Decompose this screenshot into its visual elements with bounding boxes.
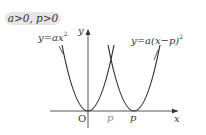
- origin-label: O: [78, 113, 86, 124]
- curve-label-2: y=a(x−p)2: [131, 33, 183, 46]
- x-axis-label: x: [174, 113, 180, 124]
- y-axis-label: y: [78, 25, 84, 36]
- tick-p-gray: p: [107, 112, 113, 123]
- curve-a-x-minus-p-2: [108, 45, 160, 111]
- y-axis-arrow-icon: [86, 29, 91, 35]
- curve-label-1: y=ax2: [38, 30, 67, 43]
- tick-p-black: p: [130, 112, 136, 123]
